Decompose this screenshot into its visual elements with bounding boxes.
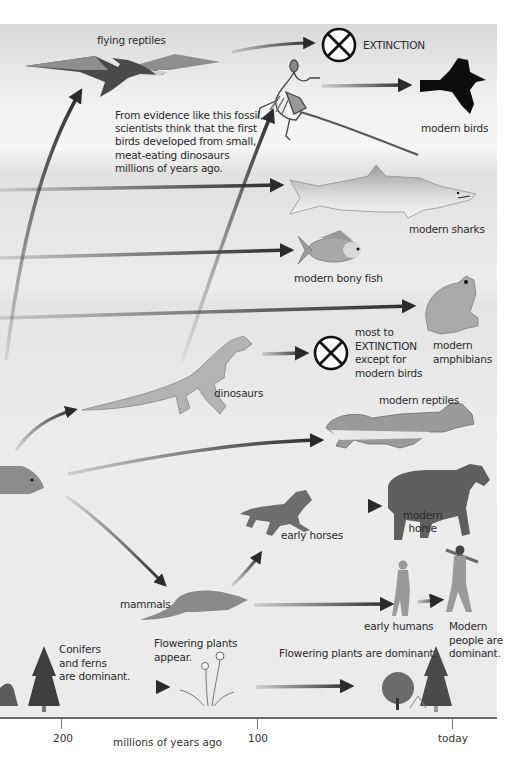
label-mammals: mammals <box>120 598 171 611</box>
arrow-early-to-modern-humans <box>417 600 440 602</box>
arrow-mammals-to-early-horses <box>232 554 260 586</box>
arrow-reptile-to-dinosaurs <box>16 410 74 450</box>
label-line: modern <box>433 339 492 353</box>
fossil-note-line: meat-eating dinosaurs <box>115 149 263 162</box>
label-line: modern birds <box>355 367 422 381</box>
arrow-mammals-to-early-humans <box>254 604 390 605</box>
label-modern-amphibians: modern amphibians <box>433 339 492 366</box>
label-line: appear. <box>154 651 237 665</box>
label-modern-bony-fish: modern bony fish <box>294 272 383 285</box>
axis-title: millions of years ago <box>113 736 222 748</box>
label-modern-sharks: modern sharks <box>409 223 485 236</box>
label-flowering-appear: Flowering plants appear. <box>154 637 237 664</box>
label-modern-birds: modern birds <box>421 122 488 135</box>
label-line: Flowering plants <box>154 637 237 651</box>
label-dinosaur-extinction: most to EXTINCTION except for modern bir… <box>355 326 422 380</box>
label-modern-reptiles: modern reptiles <box>379 394 459 407</box>
frog-icon <box>426 276 478 334</box>
extinction-cross-icon <box>323 29 355 61</box>
modern-human-icon <box>446 546 478 613</box>
axis-tick-label: 200 <box>53 732 73 744</box>
label-line: most to <box>355 326 422 340</box>
extinction-cross-icon-dinosaurs <box>315 337 347 369</box>
fossil-note-line: From evidence like this fossil, <box>115 109 263 122</box>
label-flying-reptiles: flying reptiles <box>97 34 166 47</box>
arrow-fossil-to-birds <box>322 85 408 86</box>
archaeopteryx-fossil-icon <box>258 60 418 155</box>
arrow-pterosaur-to-extinction <box>232 43 312 52</box>
label-modern-people: Modern people are dominant. <box>449 620 503 661</box>
label-line: Conifers <box>59 643 130 657</box>
label-line: and ferns <box>59 657 130 671</box>
early-human-icon <box>392 561 410 617</box>
label-line: people are <box>449 634 503 648</box>
label-line: are dominant. <box>59 670 130 684</box>
time-axis <box>0 717 497 719</box>
label-line: modern <box>403 509 442 522</box>
label-conifers: Conifers and ferns are dominant. <box>59 643 130 684</box>
label-line: EXTINCTION <box>355 340 422 354</box>
arrow-to-amphibians <box>0 306 412 318</box>
crocodile-icon <box>326 402 474 448</box>
shark-icon <box>290 165 476 218</box>
label-modern-horse: modern horse <box>403 509 442 535</box>
label-line: Modern <box>449 620 503 634</box>
axis-tick-200 <box>61 719 62 729</box>
arrow-to-bony-fish <box>0 250 290 258</box>
pterosaur-icon <box>25 54 220 97</box>
conifer-tree-icon <box>0 646 60 712</box>
label-early-humans: early humans <box>364 620 433 633</box>
label-extinction-top: EXTINCTION <box>363 39 425 52</box>
arrow-flowering-to-dominant <box>256 686 350 687</box>
axis-tick-label: today <box>438 732 468 744</box>
evolution-diagram: flying reptiles EXTINCTION From evidence… <box>0 0 508 763</box>
arrow-reptile-to-modern-reptiles <box>68 440 320 474</box>
tyrannosaurus-icon <box>82 336 252 414</box>
arrow-dinosaurs-to-extinction <box>262 353 305 354</box>
fish-icon <box>298 230 361 264</box>
fossil-note-line: scientists think that the first <box>115 122 263 135</box>
label-line: amphibians <box>433 353 492 367</box>
fossil-note: From evidence like this fossil, scientis… <box>115 109 263 175</box>
label-line: except for <box>355 353 422 367</box>
label-dinosaurs: dinosaurs <box>214 387 263 400</box>
fossil-note-line: millions of years ago. <box>115 162 263 175</box>
arrow-to-flying-reptiles <box>6 92 80 360</box>
fossil-note-line: birds developed from small, <box>115 135 263 148</box>
reptile-ancestor-icon <box>0 466 44 494</box>
label-early-horses: early horses <box>281 529 343 542</box>
bird-icon <box>420 58 486 114</box>
label-line: dominant. <box>449 647 503 661</box>
label-flowering-dominant: Flowering plants are dominant. <box>279 647 437 660</box>
axis-tick-label: 100 <box>248 732 268 744</box>
axis-tick-today <box>452 719 453 729</box>
arrow-reptile-to-mammals <box>66 496 164 584</box>
axis-tick-100 <box>257 719 258 729</box>
label-line: horse <box>403 522 442 535</box>
